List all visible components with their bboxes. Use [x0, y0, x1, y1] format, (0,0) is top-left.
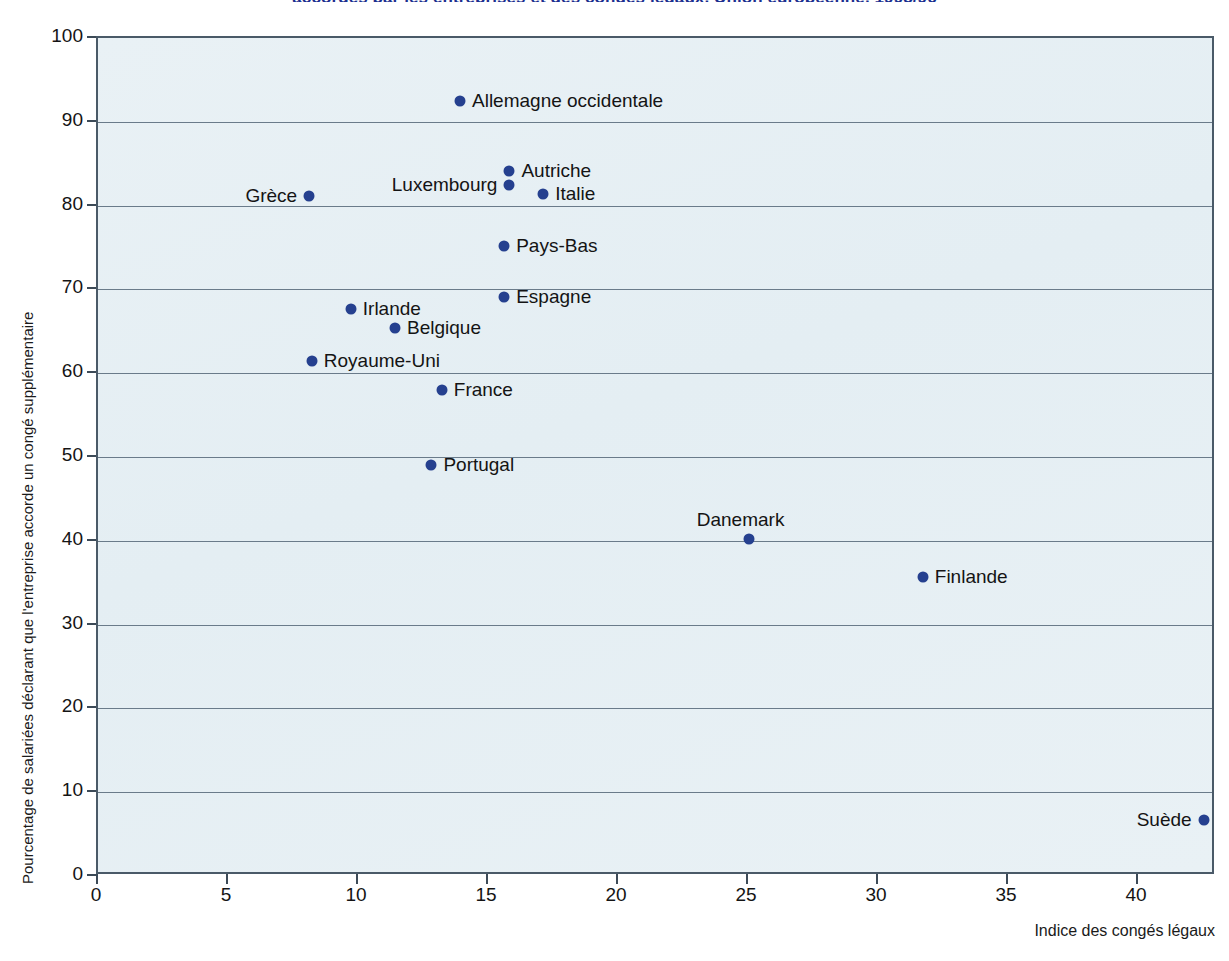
point-portugal-label: Portugal — [443, 454, 514, 476]
gridline-y-40 — [98, 541, 1212, 542]
x-tick-mark-35 — [1006, 874, 1008, 884]
x-tick-label-5: 5 — [221, 884, 232, 906]
point-irlande-marker — [345, 304, 356, 315]
point-royaume-uni-label: Royaume-Uni — [324, 350, 440, 372]
point-su-de-marker — [1198, 815, 1209, 826]
y-tick-mark-0 — [87, 874, 96, 876]
y-tick-label-10: 10 — [23, 779, 83, 801]
y-tick-mark-10 — [87, 790, 96, 792]
y-tick-label-100: 100 — [23, 25, 83, 47]
y-tick-label-90: 90 — [23, 109, 83, 131]
point-autriche-label: Autriche — [521, 160, 591, 182]
gridline-y-60 — [98, 373, 1212, 374]
point-italie-marker — [538, 189, 549, 200]
point-pays-bas-label: Pays-Bas — [516, 235, 597, 257]
y-tick-mark-80 — [87, 204, 96, 206]
point-portugal-marker — [426, 460, 437, 471]
x-tick-label-10: 10 — [345, 884, 366, 906]
gridline-y-50 — [98, 457, 1212, 458]
y-tick-mark-50 — [87, 455, 96, 457]
x-tick-mark-5 — [226, 874, 228, 884]
y-tick-mark-40 — [87, 539, 96, 541]
x-axis-title: Indice des congés légaux — [1034, 922, 1215, 940]
y-tick-label-60: 60 — [23, 360, 83, 382]
x-tick-label-20: 20 — [605, 884, 626, 906]
y-tick-label-20: 20 — [23, 695, 83, 717]
point-pays-bas-marker — [499, 240, 510, 251]
x-tick-mark-25 — [746, 874, 748, 884]
point-belgique-marker — [390, 323, 401, 334]
y-tick-label-30: 30 — [23, 612, 83, 634]
point-danemark-marker — [743, 533, 754, 544]
gridline-y-30 — [98, 625, 1212, 626]
point-gr-ce-marker — [304, 191, 315, 202]
x-tick-mark-10 — [356, 874, 358, 884]
x-tick-mark-0 — [96, 874, 98, 884]
gridline-y-90 — [98, 122, 1212, 123]
point-allemagne-occidentale-label: Allemagne occidentale — [472, 90, 663, 112]
point-danemark-label: Danemark — [697, 509, 785, 531]
gridline-y-10 — [98, 792, 1212, 793]
point-luxembourg-label: Luxembourg — [392, 174, 498, 196]
gridline-y-20 — [98, 708, 1212, 709]
y-tick-mark-20 — [87, 706, 96, 708]
y-tick-mark-100 — [87, 36, 96, 38]
point-autriche-marker — [504, 165, 515, 176]
y-tick-label-0: 0 — [23, 863, 83, 885]
x-tick-mark-20 — [616, 874, 618, 884]
point-finlande-marker — [917, 571, 928, 582]
gridline-y-70 — [98, 289, 1212, 290]
x-tick-mark-15 — [486, 874, 488, 884]
y-tick-label-70: 70 — [23, 276, 83, 298]
x-tick-label-40: 40 — [1125, 884, 1146, 906]
x-tick-mark-40 — [1136, 874, 1138, 884]
point-allemagne-occidentale-marker — [455, 96, 466, 107]
x-tick-label-35: 35 — [995, 884, 1016, 906]
point-finlande-label: Finlande — [935, 566, 1008, 588]
x-tick-label-0: 0 — [91, 884, 102, 906]
point-espagne-marker — [499, 291, 510, 302]
point-su-de-label: Suède — [1137, 809, 1192, 831]
x-tick-label-25: 25 — [735, 884, 756, 906]
y-tick-label-50: 50 — [23, 444, 83, 466]
point-royaume-uni-marker — [306, 356, 317, 367]
y-tick-mark-60 — [87, 371, 96, 373]
point-france-label: France — [454, 379, 513, 401]
y-tick-label-80: 80 — [23, 193, 83, 215]
point-espagne-label: Espagne — [516, 286, 591, 308]
x-tick-label-30: 30 — [865, 884, 886, 906]
y-tick-mark-90 — [87, 120, 96, 122]
point-france-marker — [436, 385, 447, 396]
chart-title: accordés par les entreprises et des cong… — [0, 0, 1229, 2]
point-luxembourg-marker — [504, 180, 515, 191]
plot-area — [96, 36, 1214, 874]
y-tick-mark-30 — [87, 623, 96, 625]
point-belgique-label: Belgique — [407, 317, 481, 339]
y-tick-label-40: 40 — [23, 528, 83, 550]
point-gr-ce-label: Grèce — [245, 185, 297, 207]
x-tick-label-15: 15 — [475, 884, 496, 906]
point-italie-label: Italie — [555, 183, 595, 205]
x-tick-mark-30 — [876, 874, 878, 884]
y-tick-mark-70 — [87, 287, 96, 289]
